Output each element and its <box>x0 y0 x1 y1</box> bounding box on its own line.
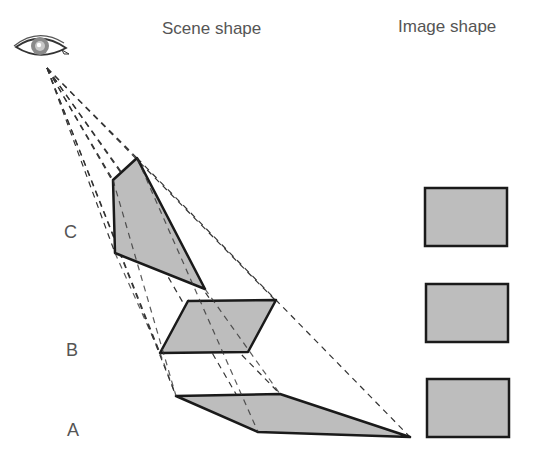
image-shape-a <box>427 379 509 437</box>
image-shape-b <box>426 284 508 342</box>
perspective-diagram <box>0 0 542 455</box>
image-shape-c <box>425 188 507 246</box>
projection-lines <box>47 68 410 437</box>
eye-icon <box>14 36 69 55</box>
scene-shape-a <box>176 394 410 437</box>
scene-shape-c <box>113 158 205 289</box>
